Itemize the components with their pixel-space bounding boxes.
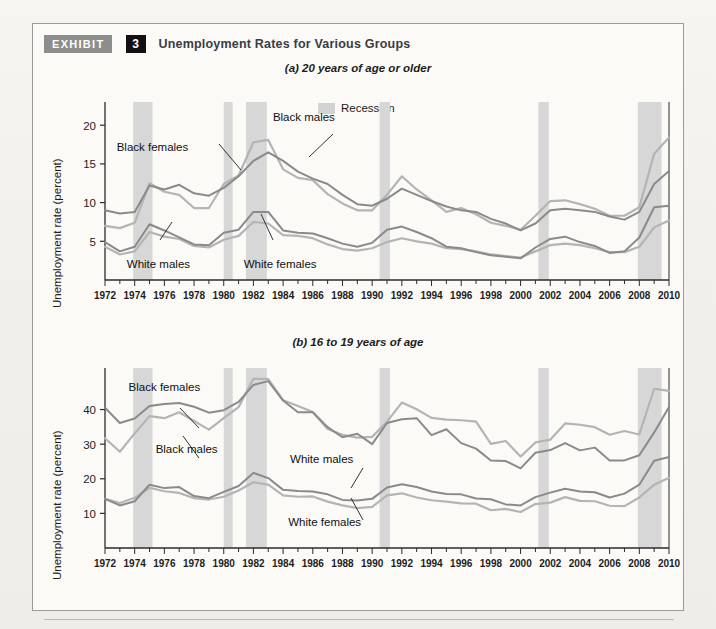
recession-band xyxy=(538,102,548,280)
x-axis-tick-label: 2000 xyxy=(509,558,532,569)
x-axis-tick-label: 2010 xyxy=(658,558,681,569)
footer-divider xyxy=(44,619,674,620)
panel-a-plot: 5101520197219741976197819801982198419861… xyxy=(33,62,683,342)
x-axis-tick-label: 2006 xyxy=(599,290,622,301)
series-annotation: White females xyxy=(244,258,317,270)
series-annotation: White females xyxy=(288,516,361,528)
annotation-leader-line xyxy=(351,468,363,488)
x-axis-tick-label: 1984 xyxy=(272,558,295,569)
x-axis-tick-label: 1976 xyxy=(153,290,176,301)
recession-band xyxy=(246,368,267,548)
recession-band xyxy=(224,102,233,280)
y-axis-tick-label: 10 xyxy=(83,197,96,209)
recession-band xyxy=(538,368,548,548)
x-axis-tick-label: 1996 xyxy=(450,290,473,301)
x-axis-tick-label: 1996 xyxy=(450,558,473,569)
y-axis-tick-label: 5 xyxy=(90,236,96,248)
x-axis-tick-label: 1992 xyxy=(391,290,414,301)
series-annotation: Black females xyxy=(117,141,189,153)
x-axis-tick-label: 1976 xyxy=(153,558,176,569)
x-axis-tick-label: 2008 xyxy=(628,290,651,301)
x-axis-tick-label: 2002 xyxy=(539,558,562,569)
annotation-leader-line xyxy=(309,134,333,157)
x-axis-tick-label: 2006 xyxy=(599,558,622,569)
recession-band xyxy=(133,368,152,548)
recession-band xyxy=(224,368,233,548)
x-axis-tick-label: 1994 xyxy=(420,290,443,301)
recession-band xyxy=(133,102,152,280)
x-axis-tick-label: 2010 xyxy=(658,290,681,301)
x-axis-tick-label: 1998 xyxy=(480,558,503,569)
x-axis-tick-label: 1982 xyxy=(242,290,265,301)
x-axis-tick-label: 1990 xyxy=(361,290,384,301)
y-axis-tick-label: 20 xyxy=(83,120,96,132)
x-axis-tick-label: 2002 xyxy=(539,290,562,301)
recession-band xyxy=(380,102,390,280)
series-annotation: Black females xyxy=(129,381,201,393)
x-axis-tick-label: 1988 xyxy=(331,290,354,301)
chart-panel-b: (b) 16 to 19 years of age Unemployment r… xyxy=(33,336,683,612)
x-axis-tick-label: 1982 xyxy=(242,558,265,569)
x-axis-tick-label: 1972 xyxy=(94,558,117,569)
x-axis-tick-label: 1984 xyxy=(272,290,295,301)
x-axis-tick-label: 1978 xyxy=(183,290,206,301)
y-axis-tick-label: 10 xyxy=(83,508,96,520)
x-axis-tick-label: 1990 xyxy=(361,558,384,569)
recession-band xyxy=(380,368,390,548)
y-axis-tick-label: 30 xyxy=(83,439,96,451)
exhibit-page: EXHIBIT 3 Unemployment Rates for Various… xyxy=(0,0,716,629)
chart-panel-a: (a) 20 years of age or older Unemploymen… xyxy=(33,62,683,342)
recession-band xyxy=(638,368,662,548)
x-axis-tick-label: 2008 xyxy=(628,558,651,569)
x-axis-tick-label: 1974 xyxy=(124,290,147,301)
series-annotation: Black males xyxy=(273,111,335,123)
x-axis-tick-label: 1992 xyxy=(391,558,414,569)
x-axis-tick-label: 2000 xyxy=(509,290,532,301)
x-axis-tick-label: 1978 xyxy=(183,558,206,569)
y-axis-tick-label: 20 xyxy=(83,473,96,485)
x-axis-tick-label: 1994 xyxy=(420,558,443,569)
x-axis-tick-label: 1986 xyxy=(302,558,325,569)
x-axis-tick-label: 1972 xyxy=(94,290,117,301)
x-axis-tick-label: 2004 xyxy=(569,558,592,569)
x-axis-tick-label: 1988 xyxy=(331,558,354,569)
y-axis-tick-label: 15 xyxy=(83,158,96,170)
y-axis-tick-label: 40 xyxy=(83,404,96,416)
exhibit-number-badge: 3 xyxy=(126,35,146,53)
x-axis-tick-label: 1986 xyxy=(302,290,325,301)
exhibit-header: EXHIBIT 3 Unemployment Rates for Various… xyxy=(44,34,410,54)
x-axis-tick-label: 1980 xyxy=(213,558,236,569)
panel-b-plot: 1020304019721974197619781980198219841986… xyxy=(33,336,683,612)
x-axis-tick-label: 1998 xyxy=(480,290,503,301)
series-annotation: White males xyxy=(290,453,354,465)
annotation-leader-line xyxy=(180,408,199,428)
x-axis-tick-label: 1980 xyxy=(213,290,236,301)
recession-band xyxy=(246,102,267,280)
x-axis-tick-label: 2004 xyxy=(569,290,592,301)
exhibit-title: Unemployment Rates for Various Groups xyxy=(159,37,411,51)
series-annotation: White males xyxy=(127,258,191,270)
exhibit-tag-label: EXHIBIT xyxy=(44,35,112,53)
series-annotation: Black males xyxy=(156,443,218,455)
x-axis-tick-label: 1974 xyxy=(124,558,147,569)
